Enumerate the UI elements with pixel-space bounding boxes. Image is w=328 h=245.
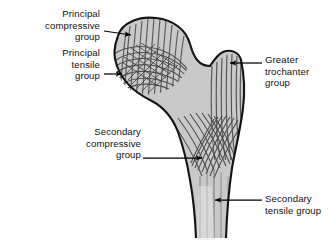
label-line: trochanter	[265, 66, 327, 78]
label-secondary-compressive-group: Secondary compressive group	[48, 126, 141, 161]
label-secondary-tensile-group: Secondary tensile group	[265, 193, 328, 216]
label-principal-compressive-group: Principal compressive group	[8, 8, 100, 43]
label-line: Secondary	[265, 193, 328, 205]
label-line: Secondary	[48, 126, 141, 138]
label-line: group	[265, 77, 327, 89]
label-line: compressive	[48, 138, 141, 150]
figure-canvas: Principal compressive group Principal te…	[0, 0, 328, 245]
label-line: Greater	[265, 54, 327, 66]
label-line: tensile group	[265, 205, 328, 217]
label-line: Principal	[8, 8, 100, 20]
label-line: group	[8, 31, 100, 43]
label-line: tensile	[8, 59, 100, 71]
label-line: Principal	[8, 47, 100, 59]
label-line: compressive	[8, 20, 100, 32]
label-principal-tensile-group: Principal tensile group	[8, 47, 100, 82]
label-line: group	[8, 70, 100, 82]
medullary-cavity	[197, 186, 214, 240]
label-greater-trochanter-group: Greater trochanter group	[265, 54, 327, 89]
label-line: group	[48, 149, 141, 161]
